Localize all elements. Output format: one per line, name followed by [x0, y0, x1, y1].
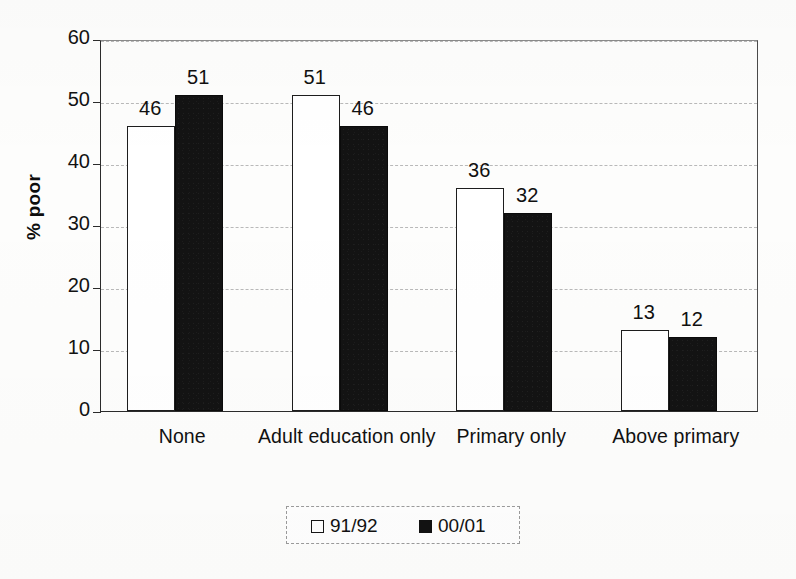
bar-value-label: 46 — [112, 97, 188, 120]
bar-value-label: 32 — [489, 184, 565, 207]
bar-chart: % poor 0102030405060 4651514636321312 No… — [0, 0, 796, 579]
y-tick-label: 50 — [34, 88, 90, 111]
bar-value-label: 51 — [277, 66, 353, 89]
bar-value-label: 46 — [325, 97, 401, 120]
legend-entry: 00/01 — [419, 515, 486, 537]
x-category-label: Primary only — [417, 424, 606, 450]
y-tick-label: 40 — [34, 150, 90, 173]
y-tick-label: 0 — [34, 398, 90, 421]
open-square-swatch — [311, 520, 324, 533]
bar-series-a — [127, 126, 175, 411]
bar-series-b — [340, 126, 388, 411]
y-tick-label: 60 — [34, 26, 90, 49]
legend-entry: 91/92 — [311, 515, 378, 537]
legend-label: 00/01 — [438, 515, 486, 537]
bar-series-b — [175, 95, 223, 411]
y-tick-label: 20 — [34, 274, 90, 297]
legend-label: 91/92 — [330, 515, 378, 537]
x-category-label: Above primary — [582, 424, 771, 450]
y-tick-label: 30 — [34, 212, 90, 235]
bar-value-label: 51 — [160, 66, 236, 89]
filled-square-swatch — [419, 520, 432, 533]
bar-series-a — [621, 330, 669, 411]
y-tick-mark — [93, 412, 101, 413]
bar-value-label: 36 — [441, 159, 517, 182]
y-tick-label: 10 — [34, 336, 90, 359]
plot-area — [100, 40, 758, 412]
bar-series-a — [456, 188, 504, 411]
x-category-label: None — [88, 424, 277, 450]
bar-series-b — [669, 337, 717, 411]
legend: 91/9200/01 — [286, 506, 520, 544]
bar-series-b — [504, 213, 552, 411]
bar-series-a — [292, 95, 340, 411]
x-category-label: Adult education only — [253, 424, 442, 450]
bar-value-label: 12 — [654, 308, 730, 331]
gridline — [101, 41, 757, 42]
